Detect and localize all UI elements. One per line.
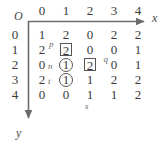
- grid-row: 01n2q01: [30, 57, 150, 72]
- grid-cell-3-2: 1: [78, 72, 102, 87]
- column-tick-labels: 01234: [30, 3, 150, 19]
- diagram-canvas: O x y 01234 01234 1202222p00101n2q0121t1…: [0, 0, 167, 144]
- grid-cell-0-4: 2: [126, 27, 150, 42]
- grid-row: 12022: [30, 27, 150, 42]
- cell-value: 2: [109, 28, 120, 41]
- grid-cell-3-4: 2: [126, 72, 150, 87]
- grid-cell-3-3: 2: [102, 72, 126, 87]
- grid-row: 22p001: [30, 42, 150, 57]
- cell-value: 0: [109, 43, 120, 56]
- origin-label: O: [14, 9, 23, 24]
- grid-row: 21t122: [30, 72, 150, 87]
- column-tick-3: 3: [102, 3, 126, 19]
- cell-value: 1: [85, 88, 96, 101]
- cell-value: 2: [133, 73, 144, 86]
- cell-annotation-t: t: [48, 77, 51, 86]
- row-tick-4: 4: [6, 87, 24, 102]
- column-tick-0: 0: [30, 3, 54, 19]
- cell-annotation-p: p: [49, 40, 54, 49]
- row-tick-0: 0: [6, 27, 24, 42]
- cell-annotation-s: s: [85, 102, 89, 111]
- column-tick-1: 1: [54, 3, 78, 19]
- grid-cell-0-3: 2: [102, 27, 126, 42]
- grid-cell-0-2: 0: [78, 27, 102, 42]
- grid-cell-4-1: 0: [54, 87, 78, 102]
- grid-cell-4-2: 1s: [78, 87, 102, 102]
- cell-value: 0: [85, 28, 96, 41]
- cell-value: 2: [133, 28, 144, 41]
- cell-value: 2: [37, 73, 48, 86]
- column-tick-2: 2: [78, 3, 102, 19]
- cell-value: 0: [61, 88, 72, 101]
- row-tick-1: 1: [6, 42, 24, 57]
- grid-cell-4-0: 0: [30, 87, 54, 102]
- x-axis-label: x: [152, 11, 157, 26]
- cell-value: 2: [61, 28, 72, 41]
- row-tick-labels: 01234: [6, 27, 24, 102]
- cell-value: 0: [109, 58, 120, 71]
- cell-annotation-q: q: [104, 55, 109, 64]
- cell-value: 1: [133, 58, 144, 71]
- cell-value: 1: [37, 28, 48, 41]
- column-tick-4: 4: [126, 3, 150, 19]
- row-tick-3: 3: [6, 72, 24, 87]
- cell-value: 2: [133, 88, 144, 101]
- grid-cell-4-3: 1: [102, 87, 126, 102]
- cell-annotation-n: n: [48, 62, 53, 71]
- cell-value: 1: [59, 58, 73, 72]
- grid-cell-2-2: 2q: [78, 57, 102, 72]
- cell-value: 2: [37, 43, 48, 56]
- cell-value: 1: [59, 73, 73, 87]
- grid-cell-0-1: 2: [54, 27, 78, 42]
- matrix-grid: 1202222p00101n2q0121t122001s12: [30, 27, 150, 102]
- cell-value: 0: [37, 88, 48, 101]
- grid-cell-2-1: 1n: [54, 57, 78, 72]
- cell-value: 2: [109, 73, 120, 86]
- cell-value: 0: [37, 58, 48, 71]
- grid-cell-1-1: 2p: [54, 42, 78, 57]
- cell-value: 2: [60, 43, 72, 56]
- cell-value: 0: [85, 43, 96, 56]
- y-axis-label: y: [16, 126, 21, 141]
- cell-value: 1: [109, 88, 120, 101]
- cell-value: 1: [85, 73, 96, 86]
- grid-row: 001s12: [30, 87, 150, 102]
- grid-cell-2-4: 1: [126, 57, 150, 72]
- grid-cell-1-2: 0: [78, 42, 102, 57]
- grid-cell-1-4: 1: [126, 42, 150, 57]
- row-tick-2: 2: [6, 57, 24, 72]
- grid-cell-3-1: 1t: [54, 72, 78, 87]
- cell-value: 2: [84, 58, 96, 71]
- cell-value: 1: [133, 43, 144, 56]
- grid-cell-4-4: 2: [126, 87, 150, 102]
